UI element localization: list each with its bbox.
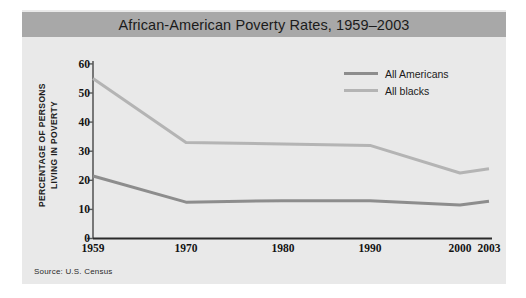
- x-tick-label: 1990: [359, 242, 382, 254]
- chart-legend: All Americans All blacks: [344, 66, 504, 100]
- x-tick-label: 1980: [272, 242, 295, 254]
- legend-swatch-icon: [344, 89, 378, 92]
- plot-area: PERCENTAGE OF PERSONS LIVING IN POVERTY …: [22, 37, 506, 284]
- x-tick-label: 2003: [478, 242, 501, 254]
- page-title: African-American Poverty Rates, 1959–200…: [118, 17, 409, 33]
- legend-swatch-icon: [344, 72, 378, 75]
- x-tick-label: 1970: [175, 242, 198, 254]
- legend-label: All Americans: [385, 68, 449, 80]
- x-tick-label: 2000: [449, 242, 472, 254]
- chart-figure: African-American Poverty Rates, 1959–200…: [22, 10, 506, 284]
- source-note: Source: U.S. Census: [34, 267, 113, 276]
- x-tick-label: 1959: [82, 242, 105, 254]
- chart-title-bar: African-American Poverty Rates, 1959–200…: [22, 12, 506, 37]
- legend-item-all-americans: All Americans: [344, 66, 504, 81]
- legend-item-all-blacks: All blacks: [344, 83, 504, 98]
- legend-label: All blacks: [385, 85, 429, 97]
